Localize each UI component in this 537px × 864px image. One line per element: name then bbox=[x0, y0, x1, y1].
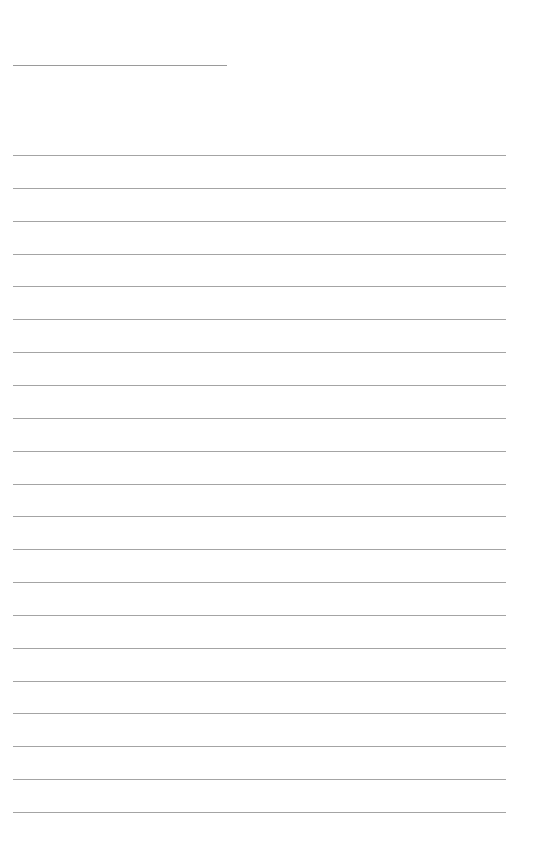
ruled-line bbox=[13, 286, 506, 287]
ruled-line bbox=[13, 188, 506, 189]
ruled-line bbox=[13, 451, 506, 452]
ruled-line bbox=[13, 254, 506, 255]
ruled-line bbox=[13, 746, 506, 747]
ruled-line bbox=[13, 615, 506, 616]
ruled-line bbox=[13, 648, 506, 649]
ruled-line bbox=[13, 155, 506, 156]
ruled-line bbox=[13, 582, 506, 583]
ruled-line bbox=[13, 516, 506, 517]
ruled-line bbox=[13, 418, 506, 419]
ruled-line bbox=[13, 352, 506, 353]
ruled-line bbox=[13, 319, 506, 320]
ruled-line bbox=[13, 221, 506, 222]
ruled-line bbox=[13, 549, 506, 550]
lined-paper-page bbox=[0, 0, 537, 864]
ruled-line bbox=[13, 812, 506, 813]
ruled-line bbox=[13, 681, 506, 682]
ruled-line bbox=[13, 713, 506, 714]
ruled-line bbox=[13, 385, 506, 386]
ruled-line bbox=[13, 484, 506, 485]
ruled-line bbox=[13, 779, 506, 780]
header-title-line bbox=[13, 65, 227, 66]
